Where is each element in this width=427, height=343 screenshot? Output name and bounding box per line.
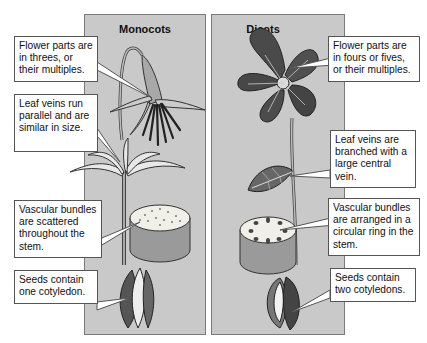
- monocot-seed-callout: Seeds contain one cotyledon.: [14, 270, 98, 304]
- monocot-leaf-callout: Leaf veins run parallel and are similar …: [14, 94, 98, 152]
- monocot-vascular-callout: Vascular bundles are scattered throughou…: [14, 200, 102, 258]
- dicot-leaf-icon: [248, 166, 292, 192]
- dicot-stem-crosssection-icon: [240, 217, 296, 274]
- monocot-stem-crosssection-icon: [130, 205, 190, 262]
- callout-text: Vascular bundles are arranged in a circu…: [333, 202, 413, 250]
- callout-text: Flower parts are in fours or fives, or t…: [333, 40, 411, 75]
- dicot-seed-callout: Seeds contain two cotyledons.: [330, 268, 416, 302]
- dicot-leaf-callout: Leaf veins are branched with a large cen…: [330, 130, 416, 188]
- dicot-flower-icon: [238, 28, 318, 122]
- callout-text: Flower parts are in threes, or their mul…: [19, 40, 93, 75]
- callout-text: Leaf veins are branched with a large cen…: [335, 134, 407, 182]
- callout-text: Leaf veins run parallel and are similar …: [19, 98, 89, 133]
- monocot-flower-callout: Flower parts are in threes, or their mul…: [14, 36, 98, 82]
- dicot-flower-callout: Flower parts are in fours or fives, or t…: [328, 36, 420, 82]
- dicot-vascular-callout: Vascular bundles are arranged in a circu…: [328, 198, 420, 256]
- callout-text: Vascular bundles are scattered throughou…: [19, 204, 96, 252]
- dicot-seed-icon: [267, 277, 299, 330]
- callout-text: Seeds contain two cotyledons.: [335, 272, 405, 295]
- callout-text: Seeds contain one cotyledon.: [19, 274, 85, 297]
- monocot-seed-icon: [120, 268, 154, 328]
- lily-flower-icon: [110, 55, 205, 145]
